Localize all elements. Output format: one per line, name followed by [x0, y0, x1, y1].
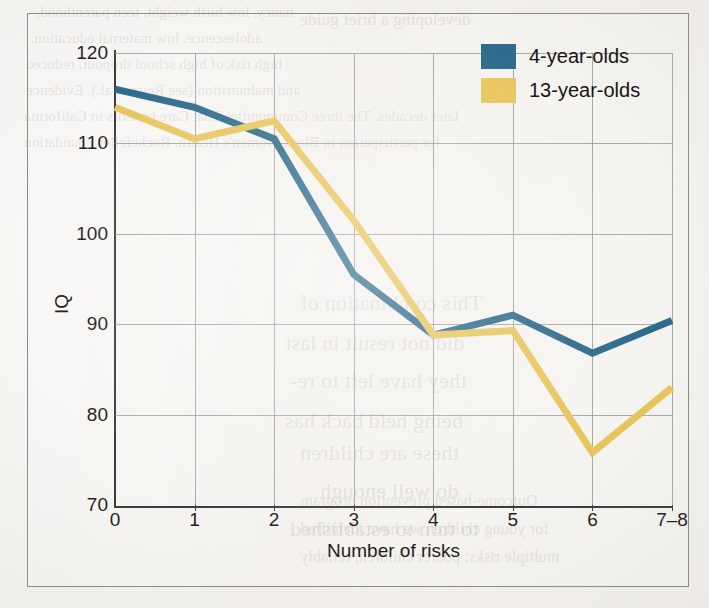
- y-tick-label: 70: [87, 494, 108, 516]
- y-tick-label: 90: [87, 313, 108, 335]
- x-tick-label: 5: [508, 509, 519, 531]
- x-tick-label: 0: [110, 509, 121, 531]
- legend-swatch-13-year-olds: [481, 78, 516, 103]
- y-tick-label: 80: [87, 403, 108, 425]
- legend-item-13-year-olds: 13-year-olds: [481, 78, 640, 103]
- x-tick-label: 2: [269, 509, 280, 531]
- y-tick-label: 100: [76, 222, 108, 244]
- x-tick-label: 7–8: [656, 509, 688, 531]
- series-line-4-year-olds: [115, 89, 672, 353]
- x-axis-line: [114, 506, 673, 508]
- y-tick-label: 110: [78, 132, 108, 154]
- series-line-13-year-olds: [115, 107, 672, 452]
- plot-area: 708090100110120 01234567–8: [115, 53, 672, 505]
- y-tick-label: 120: [76, 42, 108, 64]
- legend-label-13-year-olds: 13-year-olds: [529, 79, 640, 102]
- legend-label-4-year-olds: 4-year-olds: [529, 45, 629, 68]
- legend-item-4-year-olds: 4-year-olds: [481, 44, 640, 69]
- x-tick-label: 3: [348, 509, 359, 531]
- y-axis-title: IQ: [51, 294, 73, 314]
- gridline-vertical: [672, 53, 673, 505]
- series-lines: [115, 53, 672, 505]
- legend: 4-year-olds 13-year-olds: [481, 44, 640, 112]
- x-tick-label: 4: [428, 509, 439, 531]
- legend-swatch-4-year-olds: [481, 44, 516, 69]
- x-tick-label: 6: [587, 509, 598, 531]
- x-axis-title: Number of risks: [115, 540, 672, 562]
- x-tick-label: 1: [189, 509, 200, 531]
